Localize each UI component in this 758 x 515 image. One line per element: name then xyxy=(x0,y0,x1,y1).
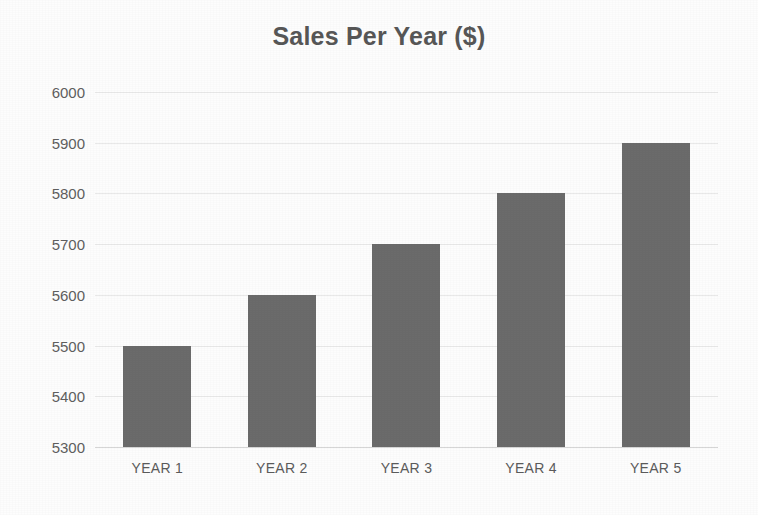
bar-4[interactable] xyxy=(497,193,565,447)
y-axis-tick-label: 5900 xyxy=(25,134,85,151)
bar-slot xyxy=(593,92,718,447)
bar-2[interactable] xyxy=(248,295,316,447)
x-axis-category-label: YEAR 3 xyxy=(381,460,433,476)
x-axis-category-label: YEAR 2 xyxy=(256,460,308,476)
bar-chart: Sales Per Year ($) 600059005800570056005… xyxy=(0,0,758,515)
x-axis-category-label: YEAR 4 xyxy=(505,460,557,476)
y-axis-tick-label: 6000 xyxy=(25,84,85,101)
bar-slot xyxy=(469,92,594,447)
chart-title: Sales Per Year ($) xyxy=(0,22,758,51)
x-axis-category-label: YEAR 1 xyxy=(131,460,183,476)
plot-area xyxy=(95,92,718,447)
gridline-5300 xyxy=(95,447,718,448)
bar-slot xyxy=(344,92,469,447)
y-axis-tick-label: 5800 xyxy=(25,185,85,202)
y-axis-tick-label: 5700 xyxy=(25,236,85,253)
y-axis-tick-label: 5300 xyxy=(25,439,85,456)
x-axis-category-label: YEAR 5 xyxy=(630,460,682,476)
bar-slot xyxy=(220,92,345,447)
bar-slot xyxy=(95,92,220,447)
bar-3[interactable] xyxy=(372,244,440,447)
y-axis-tick-label: 5400 xyxy=(25,388,85,405)
bar-5[interactable] xyxy=(622,143,690,447)
y-axis-tick-label: 5500 xyxy=(25,337,85,354)
y-axis-tick-label: 5600 xyxy=(25,286,85,303)
bar-1[interactable] xyxy=(123,346,191,447)
